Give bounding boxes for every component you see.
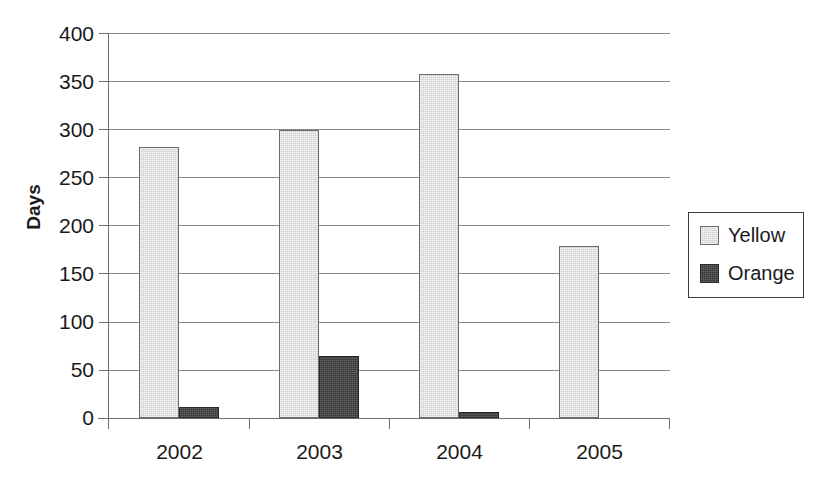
x-tick-mark	[669, 418, 670, 429]
y-tick-label: 200	[22, 215, 94, 236]
bar-orange-2003	[319, 356, 359, 418]
y-tick-label: 350	[22, 71, 94, 92]
legend-label-yellow: Yellow	[728, 225, 785, 245]
gridline	[108, 225, 670, 226]
bar-yellow-2005	[559, 246, 599, 418]
y-axis-line	[108, 33, 109, 419]
y-tick-label: 100	[22, 311, 94, 332]
x-tick-label-2004: 2004	[389, 440, 530, 464]
bar-yellow-2002	[139, 147, 179, 418]
gridline	[108, 81, 670, 82]
x-tick-mark	[108, 418, 109, 429]
gridline	[108, 33, 670, 34]
x-tick-mark	[529, 418, 530, 429]
y-tick-mark	[99, 33, 109, 34]
y-axis-tick-labels: 400 350 300 250 200 150 100 50 0	[18, 0, 94, 492]
gridline	[108, 177, 670, 178]
bar-orange-2002	[179, 407, 219, 418]
y-tick-label: 0	[22, 407, 94, 428]
x-tick-label-2002: 2002	[109, 440, 250, 464]
x-axis-line	[98, 418, 670, 419]
y-tick-label: 150	[22, 263, 94, 284]
y-tick-label: 400	[22, 23, 94, 44]
legend-item-orange: Orange	[700, 260, 795, 286]
y-tick-mark	[99, 322, 109, 323]
plot-area	[108, 33, 670, 418]
y-tick-mark	[99, 370, 109, 371]
bar-orange-2004	[459, 412, 499, 418]
legend-swatch-yellow-icon	[700, 226, 719, 245]
legend: Yellow Orange	[688, 212, 804, 298]
y-tick-mark	[99, 129, 109, 130]
bar-chart: Days 400 350 300 250 200 150 100 50 0	[0, 0, 827, 492]
y-tick-mark	[99, 81, 109, 82]
y-tick-mark	[99, 273, 109, 274]
legend-label-orange: Orange	[728, 263, 795, 283]
y-tick-label: 250	[22, 167, 94, 188]
y-tick-mark	[99, 177, 109, 178]
x-tick-label-2005: 2005	[529, 440, 670, 464]
bar-yellow-2004	[419, 74, 459, 418]
gridline	[108, 129, 670, 130]
x-tick-mark	[389, 418, 390, 429]
y-tick-label: 300	[22, 119, 94, 140]
x-tick-label-2003: 2003	[249, 440, 390, 464]
bar-yellow-2003	[279, 130, 319, 418]
y-tick-label: 50	[22, 359, 94, 380]
legend-swatch-orange-icon	[700, 264, 719, 283]
x-tick-mark	[249, 418, 250, 429]
legend-item-yellow: Yellow	[700, 222, 785, 248]
y-tick-mark	[99, 225, 109, 226]
